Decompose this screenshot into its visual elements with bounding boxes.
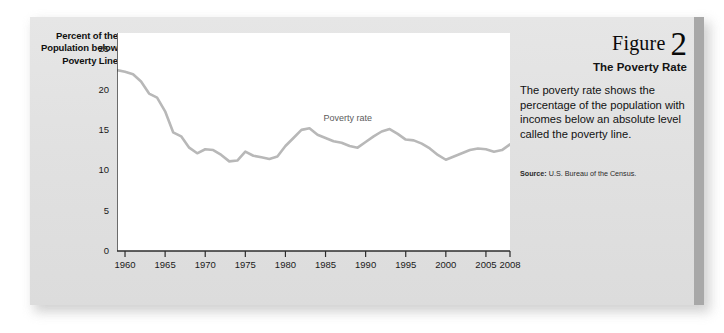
series-annotation: Poverty rate <box>324 113 373 123</box>
y-tick-label: 20 <box>83 85 109 95</box>
figure-label: Figure <box>612 32 665 54</box>
source-label: Source: <box>520 169 547 178</box>
x-tick-label: 1970 <box>191 260 219 270</box>
x-tick-label: 1960 <box>111 260 139 270</box>
caption-body: The poverty rate shows the percentage of… <box>520 83 690 141</box>
figure-number: 2 <box>671 26 688 62</box>
figure-root: Percent of the Population below Poverty … <box>0 0 724 333</box>
y-tick-label: 10 <box>83 165 109 175</box>
x-tick-label: 1980 <box>271 260 299 270</box>
chart-block: Percent of the Population below Poverty … <box>30 17 530 305</box>
axis-lines <box>117 33 517 273</box>
x-tick-label: 1965 <box>151 260 179 270</box>
accent-bar <box>694 17 704 305</box>
figure-panel: Percent of the Population below Poverty … <box>30 17 704 305</box>
source-text: U.S. Bureau of the Census. <box>549 169 637 178</box>
x-tick-label: 1975 <box>231 260 259 270</box>
y-tick-label: 15 <box>83 125 109 135</box>
figure-heading: Figure2 <box>612 23 687 56</box>
x-tick-label: 1995 <box>392 260 420 270</box>
x-tick-label: 2000 <box>432 260 460 270</box>
caption-source: Source: U.S. Bureau of the Census. <box>520 169 692 178</box>
y-tick-label: 0 <box>83 246 109 256</box>
caption-block: Figure2 The Poverty Rate The poverty rat… <box>518 17 694 305</box>
caption-title: The Poverty Rate <box>593 61 687 73</box>
x-tick-label: 1985 <box>312 260 340 270</box>
x-tick-label: 1990 <box>352 260 380 270</box>
y-tick-label: 25 <box>83 44 109 54</box>
y-tick-label: 5 <box>83 206 109 216</box>
